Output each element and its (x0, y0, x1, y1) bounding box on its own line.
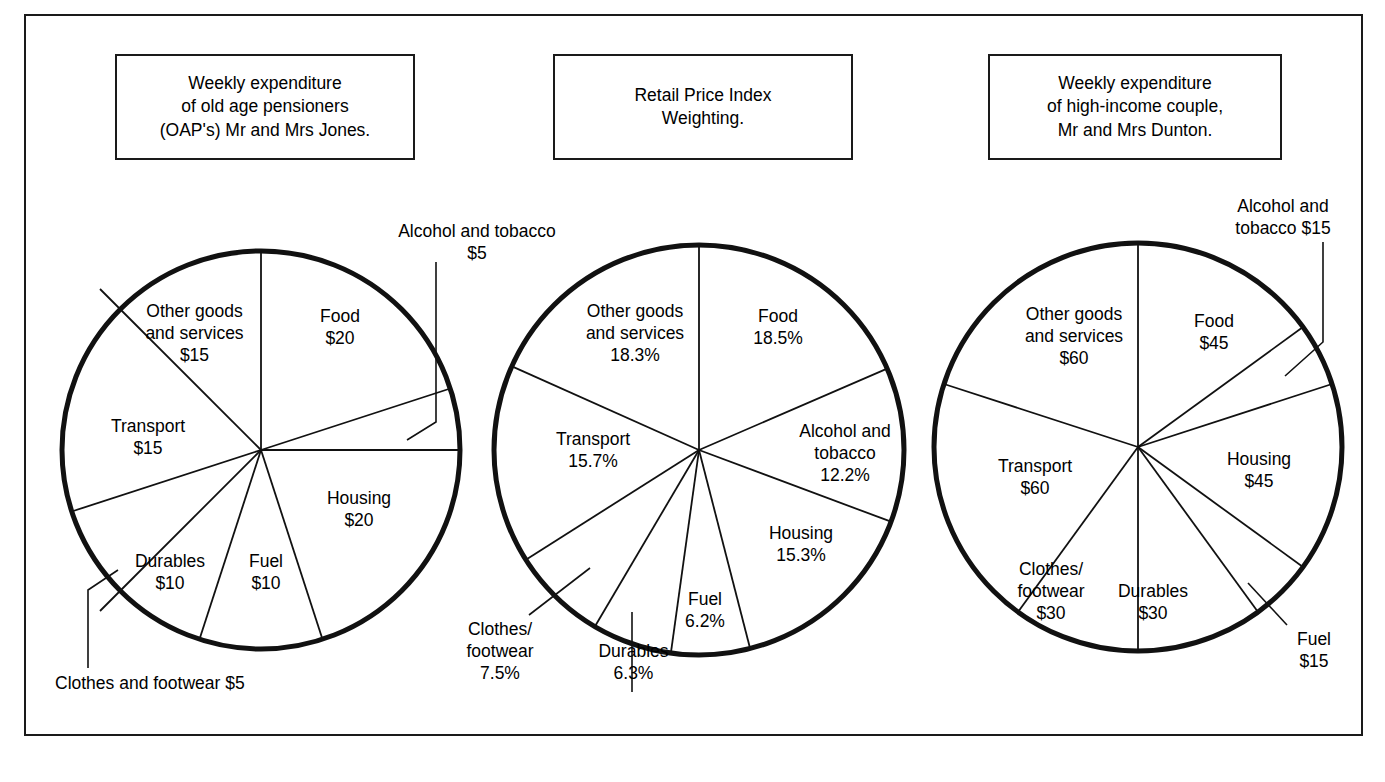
figure-canvas: Weekly expenditure of old age pensioners… (0, 0, 1385, 782)
slice-label-dunton-transport: Transport $60 (970, 455, 1100, 499)
slice-label-oap-housing: Housing $20 (300, 487, 418, 531)
slice-label-rpi-food: Food 18.5% (723, 305, 833, 349)
pie-geometry-layer (0, 0, 1385, 782)
slice-label-oap-transport: Transport $15 (88, 415, 208, 459)
slice-label-dunton-housing: Housing $45 (1200, 448, 1318, 492)
slice-label-dunton-food: Food $45 (1162, 310, 1266, 354)
slice-label-oap-clothes: Clothes and footwear $5 (55, 672, 345, 694)
slice-label-oap-food: Food $20 (285, 305, 395, 349)
slice-label-rpi-fuel: Fuel 6.2% (663, 588, 747, 632)
slice-label-rpi-transport: Transport 15.7% (528, 428, 658, 472)
slice-label-oap-fuel: Fuel $10 (226, 550, 306, 594)
slice-label-dunton-fuel: Fuel $15 (1272, 628, 1356, 672)
slice-label-oap-other: Other goods and services $15 (122, 300, 267, 366)
slice-label-rpi-clothes: Clothes/ footwear 7.5% (440, 618, 560, 684)
slice-label-rpi-housing: Housing 15.3% (742, 522, 860, 566)
slice-label-oap-durables: Durables $10 (115, 550, 225, 594)
slice-label-dunton-clothes: Clothes/ footwear $30 (993, 558, 1109, 624)
slice-label-oap-alcohol: Alcohol and tobacco $5 (362, 220, 592, 264)
slice-label-rpi-durables: Durables 6.3% (576, 640, 691, 684)
slice-label-rpi-alcohol: Alcohol and tobacco 12.2% (775, 420, 915, 486)
slice-label-dunton-other: Other goods and services $60 (1000, 303, 1148, 369)
slice-label-dunton-durables: Durables $30 (1097, 580, 1209, 624)
slice-label-rpi-other: Other goods and services 18.3% (561, 300, 709, 366)
slice-label-dunton-alcohol: Alcohol and tobacco $15 (1203, 195, 1363, 239)
